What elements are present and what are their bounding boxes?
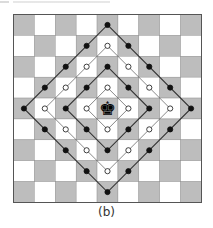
board-square bbox=[181, 35, 202, 56]
black-dot-marker bbox=[126, 169, 131, 174]
board-square bbox=[14, 56, 35, 77]
black-dot-marker bbox=[63, 106, 68, 111]
board-square bbox=[14, 182, 35, 203]
board-square bbox=[160, 161, 181, 182]
white-dot-marker bbox=[147, 85, 152, 90]
white-dot-marker bbox=[84, 64, 89, 69]
board-square bbox=[55, 35, 76, 56]
white-dot-marker bbox=[42, 106, 47, 111]
white-dot-marker bbox=[147, 127, 152, 132]
white-dot-marker bbox=[84, 106, 89, 111]
white-dot-marker bbox=[126, 148, 131, 153]
board-square bbox=[181, 77, 202, 98]
black-dot-marker bbox=[84, 43, 89, 48]
board-square bbox=[118, 182, 139, 203]
white-dot-marker bbox=[105, 43, 110, 48]
black-dot-marker bbox=[147, 148, 152, 153]
black-dot-marker bbox=[188, 106, 193, 111]
board-square bbox=[139, 15, 160, 36]
board-square bbox=[14, 140, 35, 161]
board-square bbox=[34, 56, 55, 77]
black-dot-marker bbox=[84, 85, 89, 90]
black-dot-marker bbox=[84, 169, 89, 174]
board-square bbox=[14, 77, 35, 98]
black-dot-marker bbox=[105, 189, 110, 194]
figure-caption: (b) bbox=[0, 205, 213, 219]
board-square bbox=[76, 182, 97, 203]
white-dot-marker bbox=[126, 64, 131, 69]
white-dot-marker bbox=[63, 85, 68, 90]
board-square bbox=[55, 15, 76, 36]
board-square bbox=[181, 56, 202, 77]
white-dot-marker bbox=[168, 106, 173, 111]
board-square bbox=[181, 182, 202, 203]
board-square bbox=[181, 119, 202, 140]
chessboard-diagram: ♚ bbox=[13, 14, 202, 203]
black-dot-marker bbox=[105, 22, 110, 27]
black-dot-marker bbox=[126, 43, 131, 48]
white-dot-marker bbox=[105, 169, 110, 174]
white-dot-marker bbox=[126, 106, 131, 111]
board-square bbox=[181, 140, 202, 161]
board-square bbox=[181, 161, 202, 182]
board-square bbox=[34, 140, 55, 161]
black-dot-marker bbox=[105, 148, 110, 153]
cropped-text-fragment bbox=[0, 0, 110, 4]
white-dot-marker bbox=[63, 127, 68, 132]
board-square bbox=[181, 15, 202, 36]
board-square bbox=[14, 119, 35, 140]
black-dot-marker bbox=[21, 106, 26, 111]
black-dot-marker bbox=[168, 127, 173, 132]
board-square bbox=[160, 182, 181, 203]
black-dot-marker bbox=[147, 64, 152, 69]
board-square bbox=[14, 15, 35, 36]
board-square bbox=[34, 35, 55, 56]
board-square bbox=[76, 15, 97, 36]
white-dot-marker bbox=[105, 127, 110, 132]
board-square bbox=[139, 182, 160, 203]
black-dot-marker bbox=[168, 85, 173, 90]
black-dot-marker bbox=[126, 85, 131, 90]
board-square bbox=[160, 35, 181, 56]
board-square bbox=[160, 15, 181, 36]
black-dot-marker bbox=[42, 85, 47, 90]
board-square bbox=[160, 56, 181, 77]
black-dot-marker bbox=[63, 64, 68, 69]
black-dot-marker bbox=[126, 127, 131, 132]
black-dot-marker bbox=[63, 148, 68, 153]
board-square bbox=[34, 161, 55, 182]
board-square bbox=[55, 161, 76, 182]
black-dot-marker bbox=[147, 106, 152, 111]
black-dot-marker bbox=[84, 127, 89, 132]
black-dot-marker bbox=[42, 127, 47, 132]
white-dot-marker bbox=[84, 148, 89, 153]
board-square bbox=[55, 182, 76, 203]
board-square bbox=[34, 15, 55, 36]
board-square bbox=[118, 15, 139, 36]
board-square bbox=[14, 161, 35, 182]
board-square bbox=[139, 161, 160, 182]
king-icon: ♚ bbox=[99, 97, 116, 119]
black-dot-marker bbox=[105, 64, 110, 69]
board-square bbox=[14, 35, 35, 56]
board-square bbox=[160, 140, 181, 161]
board-square bbox=[139, 35, 160, 56]
board-square bbox=[34, 182, 55, 203]
white-dot-marker bbox=[105, 85, 110, 90]
